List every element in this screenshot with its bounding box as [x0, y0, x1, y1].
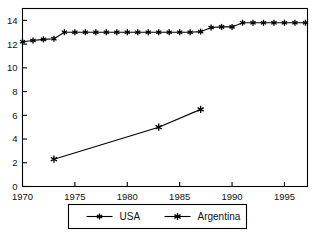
chart-figure: 02468101214 197019751980198519901995 USA…: [0, 0, 315, 233]
legend-label: USA: [120, 211, 141, 222]
chart-legend: USAArgentina: [69, 205, 247, 229]
y-tick-label: 10: [7, 62, 18, 73]
y-tick-label: 12: [7, 39, 18, 50]
x-tick-label: 1985: [169, 191, 190, 202]
x-tick-label: 1990: [221, 191, 242, 202]
y-tick-label: 14: [7, 15, 18, 26]
x-tick-label: 1980: [117, 191, 138, 202]
figure-background: [0, 0, 315, 233]
x-tick-label: 1975: [64, 191, 85, 202]
chart-canvas: 02468101214 197019751980198519901995 USA…: [0, 0, 315, 233]
y-tick-label: 4: [12, 133, 17, 144]
x-tick-label: 1970: [12, 191, 33, 202]
x-tick-label: 1995: [274, 191, 295, 202]
y-tick-label: 6: [12, 110, 17, 121]
y-tick-label: 8: [12, 86, 17, 97]
y-tick-label: 2: [12, 157, 17, 168]
legend-label: Argentina: [198, 211, 241, 222]
